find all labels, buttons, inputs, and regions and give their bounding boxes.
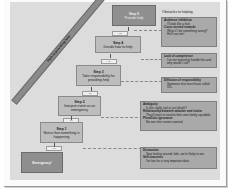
step-3-box: Step 3 Take responsibility for providing… — [76, 65, 121, 86]
link-step4-obstacles — [141, 59, 162, 60]
step-4-desc: Decide how to help — [104, 45, 133, 49]
step-1-box: Step 1 Notice that something is happenin… — [40, 122, 83, 143]
emergency-box: Emergency! — [21, 152, 63, 173]
step-3-desc: Take responsibility for providing help — [77, 74, 120, 82]
arrow-up-icon — [91, 87, 92, 91]
obstacle-group-step4: Lack of competence I've not trained to h… — [161, 53, 217, 68]
step-4-box: Step 4 Decide how to help — [95, 36, 141, 53]
obstacle-desc: I've not trained to handle this and why … — [164, 59, 214, 66]
obstacle-group-step1: Distraction Stop fooling around, kids, w… — [140, 147, 217, 169]
step-1-desc: Notice that something is happening — [41, 131, 82, 139]
obstacle-desc: No one else seems worried. — [143, 121, 214, 125]
obstacle-desc: What if I do something wrong? He'll sue … — [164, 30, 214, 37]
arrow-up-icon — [71, 116, 72, 120]
emergency-label: Emergency! — [32, 161, 51, 165]
obstacle-group-step2: Ambiguity Is this really real or just dr… — [140, 101, 217, 131]
step-2-box: Step 2 Interpret event as an emergency — [58, 96, 101, 116]
step-2-desc: Interpret event as an emergency — [59, 104, 100, 112]
connector-3-4: Yes — [101, 59, 117, 64]
arrow-up-icon — [128, 27, 129, 31]
obstacle-group-step3: Diffusion of responsibility Someone else… — [161, 77, 217, 93]
obstacle-desc: I'm late for a very important date. — [143, 160, 214, 164]
obstacle-group-step5: Audience inhibition I'll look like a foo… — [161, 17, 217, 47]
arrow-up-icon — [110, 54, 111, 58]
step-5-box: Step 5 Provide help — [112, 5, 156, 26]
link-step3-obstacles — [121, 81, 162, 82]
obstacles-title: Obstacles to helping — [162, 10, 193, 14]
obstacle-desc: Someone else must have called 911. — [164, 83, 214, 90]
link-step5-obstacles — [134, 30, 162, 31]
arrow-up-icon — [54, 143, 55, 147]
step-5-desc: Provide help — [125, 16, 144, 20]
